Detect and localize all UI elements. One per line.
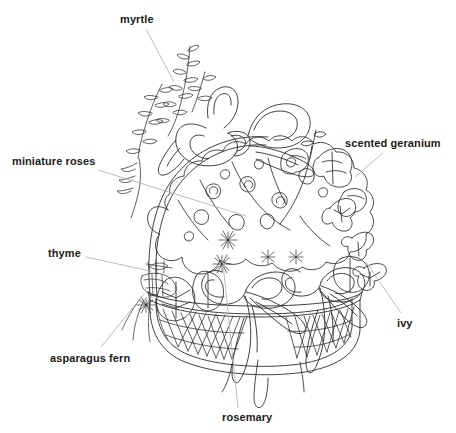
label-thyme: thyme: [48, 247, 81, 259]
leader-ivy: [366, 262, 401, 313]
myrtle-foliage: [117, 45, 216, 218]
rosemary-sprigs: [213, 231, 303, 273]
label-myrtle: myrtle: [120, 13, 154, 25]
herb-basket-figure: myrtle miniature roses scented geranium …: [0, 0, 456, 433]
basket-weave-right: [286, 307, 354, 358]
leader-scented-geranium: [355, 153, 383, 177]
leader-rosemary: [222, 254, 238, 408]
leader-thyme: [86, 257, 150, 271]
label-miniature-roses: miniature roses: [12, 155, 95, 167]
basket-illustration: [0, 0, 456, 433]
label-asparagus-fern: asparagus fern: [50, 352, 130, 364]
label-rosemary: rosemary: [222, 411, 272, 423]
label-ivy: ivy: [397, 317, 413, 329]
lower-trailing-leaves: [222, 360, 304, 408]
leader-myrtle: [146, 29, 174, 82]
label-scented-geranium: scented geranium: [345, 137, 441, 149]
leader-asparagus-fern: [101, 294, 144, 347]
